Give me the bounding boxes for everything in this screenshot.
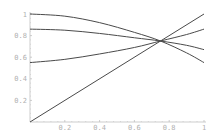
plot-series [30, 14, 204, 122]
y-tick-label: 1 [23, 11, 27, 19]
series-curve-2 [30, 29, 204, 50]
y-tick-label: 0.6 [14, 54, 27, 62]
y-tick-label: 0.4 [14, 75, 27, 83]
series-curve-3 [30, 29, 204, 62]
y-tick-label: 0.8 [14, 32, 27, 40]
x-tick-label: 0.2 [58, 124, 71, 132]
line-chart: 0.20.40.60.810.20.40.60.81 [0, 0, 219, 136]
x-tick-label: 1 [202, 124, 206, 132]
x-tick-label: 0.6 [128, 124, 141, 132]
x-tick-label: 0.4 [93, 124, 106, 132]
y-tick-label: 0.2 [14, 97, 27, 105]
series-curve-1 [30, 14, 204, 63]
x-tick-label: 0.8 [163, 124, 176, 132]
